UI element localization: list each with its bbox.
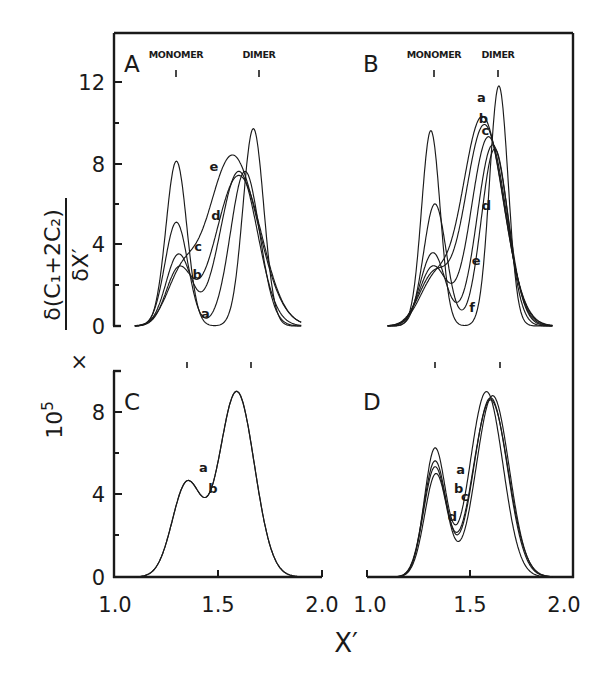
monomer-label-b: MONOMER [407, 49, 463, 60]
y-tick-label-4-bottom: 4 [92, 483, 105, 507]
y-axis-label: δ(C₁+2C₂) δX′ × 105 [39, 198, 93, 439]
x-tick-label-d-1.5: 1.5 [453, 593, 486, 617]
curve-a-c [135, 171, 301, 325]
curve-label-a-a: a [201, 306, 210, 321]
curve-label-b-a: a [477, 90, 486, 105]
x-tick-labels: 1.0 1.5 2.0 1.0 1.5 2.0 [98, 593, 580, 617]
panel-letter-a: A [124, 51, 140, 77]
curve-label-a-e: e [209, 159, 218, 174]
x-tick-label-c-2.0: 2.0 [305, 593, 338, 617]
y-label-times: × [66, 353, 91, 371]
markers-d [435, 362, 500, 368]
curve-label-b-c: c [482, 123, 490, 138]
curve-label-b-d: d [482, 198, 491, 213]
curve-label-c-a: a [199, 460, 208, 475]
y-tick-label-0: 0 [92, 315, 105, 339]
y-label-denominator: δX′ [68, 248, 93, 282]
curve-labels: abcdeabcdefababcd [193, 90, 492, 524]
panel-letter-c: C [124, 389, 140, 415]
curve-c-b [135, 391, 301, 576]
y-tick-labels-top: 12 8 4 0 [78, 71, 105, 339]
curve-c-a [135, 391, 301, 576]
axes-frame [113, 33, 574, 578]
y-tick-label-4: 4 [92, 233, 105, 257]
curve-label-d-d: d [448, 509, 457, 524]
monomer-label-a: MONOMER [149, 49, 205, 60]
panel-letter-b: B [363, 51, 379, 77]
curve-b-b [388, 125, 553, 326]
curve-label-a-b: b [193, 267, 202, 282]
markers-c [187, 362, 251, 368]
curve-label-d-a: a [456, 462, 465, 477]
x-axis-label: X′ [334, 628, 358, 658]
curve-label-d-c: c [461, 489, 469, 504]
curve-label-b-e: e [472, 253, 481, 268]
y-tick-labels-bottom: 8 4 0 [92, 401, 105, 590]
markers-a: MONOMER DIMER [149, 49, 277, 77]
x-tick-label-d-1.0: 1.0 [353, 593, 386, 617]
x-tick-label-c-1.0: 1.0 [98, 593, 131, 617]
x-tick-label-c-1.5: 1.5 [201, 593, 234, 617]
curve-label-b-f: f [469, 300, 475, 315]
y-tick-label-8-bottom: 8 [92, 401, 105, 425]
y-label-numerator: δ(C₁+2C₂) [40, 209, 65, 320]
y-tick-label-12: 12 [78, 71, 105, 95]
y-label-scale: 105 [39, 401, 67, 439]
curve-b-f [388, 86, 553, 326]
curve-label-a-c: c [194, 239, 202, 254]
figure: 12 8 4 0 8 4 0 1.0 1.5 2.0 1.0 1.5 2.0 X… [0, 0, 614, 688]
curve-label-c-b: b [208, 481, 217, 496]
y-tick-label-8: 8 [92, 153, 105, 177]
dimer-label-a: DIMER [242, 49, 276, 60]
curves [135, 86, 553, 577]
curve-label-a-d: d [211, 208, 220, 223]
panel-letter-d: D [363, 389, 381, 415]
markers-b: MONOMER DIMER [407, 49, 516, 77]
x-tick-label-d-2.0: 2.0 [547, 593, 580, 617]
y-tick-label-0-bottom: 0 [92, 566, 105, 590]
dimer-label-b: DIMER [481, 49, 515, 60]
curve-d-b [388, 398, 553, 577]
